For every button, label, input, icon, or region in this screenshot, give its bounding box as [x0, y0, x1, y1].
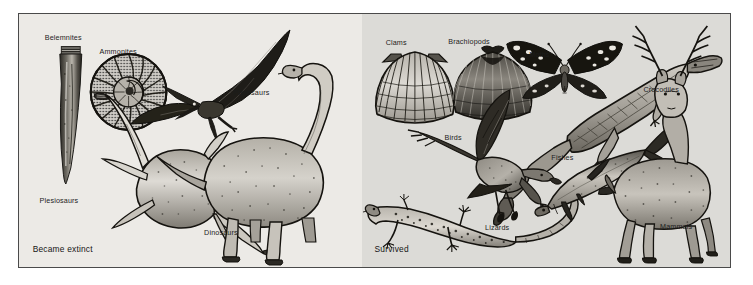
label-moths: Moths: [529, 51, 549, 58]
belemnite-illustration: [60, 46, 82, 184]
label-brachiopods: Brachiopods: [448, 38, 490, 45]
label-clams: Clams: [386, 39, 407, 46]
extinction-survival-figure: Belemnites Ammonites Pterosaurs Plesiosa…: [0, 0, 753, 285]
label-lizards: Lizards: [485, 224, 509, 231]
fish-illustration: [535, 124, 677, 221]
brachiopod-illustration: [453, 46, 533, 120]
panel-became-extinct: Belemnites Ammonites Pterosaurs Plesiosa…: [19, 14, 362, 267]
label-fishes: Fishes: [551, 154, 573, 161]
moth-illustration: [506, 41, 622, 98]
caption-survived: Survived: [375, 245, 409, 253]
label-belemnites: Belemnites: [45, 34, 82, 41]
label-pterosaurs: Pterosaurs: [233, 89, 269, 96]
caption-became-extinct: Became extinct: [33, 245, 93, 253]
crocodile-illustration: [493, 56, 721, 226]
label-crocodiles: Crocodiles: [643, 86, 678, 93]
label-mammals: Mammals: [660, 223, 692, 230]
pterosaur-illustration: [131, 30, 290, 142]
bird-illustration: [408, 90, 562, 223]
figure-frame: Belemnites Ammonites Pterosaurs Plesiosa…: [18, 13, 731, 268]
label-dinosaurs: Dinosaurs: [204, 229, 238, 236]
label-ammonites: Ammonites: [100, 48, 137, 55]
label-plesiosaurs: Plesiosaurs: [40, 197, 79, 204]
ammonite-illustration: [91, 54, 167, 130]
extinct-organisms-artwork: [19, 14, 362, 267]
label-birds: Birds: [445, 134, 462, 141]
clam-illustration: [375, 52, 453, 123]
panel-survived: Clams Brachiopods Moths Crocodiles Birds…: [362, 14, 730, 267]
plesiosaur-illustration: [94, 93, 277, 257]
